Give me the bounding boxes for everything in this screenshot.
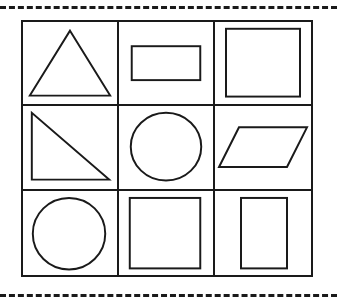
grid-cell-r3c3[interactable] <box>215 191 311 275</box>
bottom-cut-line <box>0 294 337 297</box>
grid-cell-r1c2[interactable] <box>119 22 215 106</box>
parallelogram-icon <box>215 106 311 188</box>
grid-cell-r1c1[interactable] <box>23 22 119 106</box>
square-icon <box>119 191 213 275</box>
circle-icon <box>23 191 117 275</box>
rectangle-vertical-icon <box>215 191 311 275</box>
grid-cell-r1c3[interactable] <box>215 22 311 106</box>
grid-cell-r3c2[interactable] <box>119 191 215 275</box>
circle-icon <box>119 106 213 188</box>
shape-grid <box>21 20 313 277</box>
grid-cell-r2c1[interactable] <box>23 106 119 190</box>
triangle-icon <box>23 22 117 104</box>
grid-cell-r2c2[interactable] <box>119 106 215 190</box>
square-icon <box>215 22 311 104</box>
grid-cell-r2c3[interactable] <box>215 106 311 190</box>
top-cut-line <box>0 6 337 9</box>
rectangle-horizontal-icon <box>119 22 213 104</box>
grid-cell-r3c1[interactable] <box>23 191 119 275</box>
right-triangle-icon <box>23 106 117 188</box>
worksheet-page <box>0 0 337 305</box>
